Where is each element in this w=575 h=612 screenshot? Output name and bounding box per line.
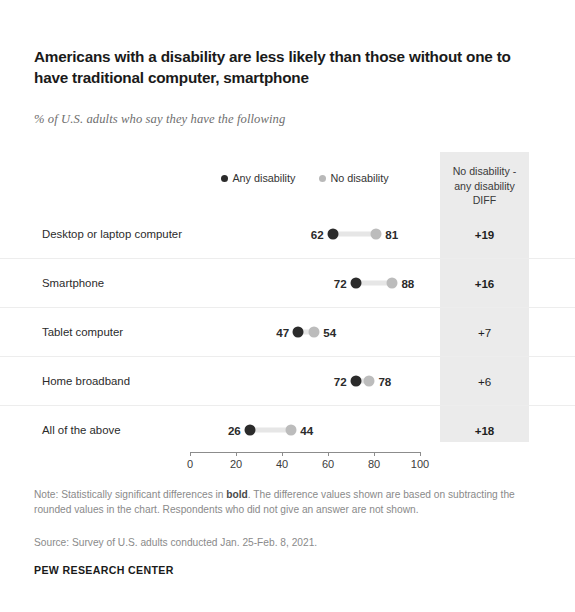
x-axis-tick [282, 452, 283, 456]
chart-note: Note: Statistically significant differen… [34, 488, 534, 517]
table-row: Tablet computer4754+7 [0, 308, 575, 357]
x-axis-tick [190, 452, 191, 456]
data-point-any-disability [327, 229, 338, 240]
row-label: Home broadband [42, 374, 192, 389]
pew-research-center-logo: PEW RESEARCH CENTER [34, 564, 174, 576]
x-axis-tick-label: 20 [230, 458, 242, 470]
diff-value: +6 [440, 375, 529, 388]
data-point-no-disability [387, 278, 398, 289]
diff-header-line-3: DIFF [440, 193, 529, 208]
row-plot: 4754 [190, 308, 420, 356]
x-axis-tick [236, 452, 237, 456]
diff-column-header: No disability - any disability DIFF [440, 164, 529, 208]
x-axis-tick-label: 60 [322, 458, 334, 470]
diff-value: +18 [440, 424, 529, 437]
legend-item-no-disability: No disability [319, 172, 388, 184]
table-row: Desktop or laptop computer6281+19 [0, 210, 575, 259]
diff-header-line-2: any disability [440, 179, 529, 194]
diff-value: +7 [440, 326, 529, 339]
row-plot: 6281 [190, 210, 420, 258]
diff-value: +16 [440, 277, 529, 290]
row-plot: 2644 [190, 406, 420, 454]
table-row: All of the above2644+18 [0, 406, 575, 454]
x-axis-tick [374, 452, 375, 456]
dot-connector [333, 232, 377, 237]
x-axis-tick-label: 0 [187, 458, 193, 470]
page-subtitle: % of U.S. adults who say they have the f… [34, 112, 504, 127]
data-point-no-disability [309, 327, 320, 338]
page-title: Americans with a disability are less lik… [34, 46, 534, 88]
row-label: Tablet computer [42, 325, 192, 340]
legend-label-any-disability: Any disability [232, 172, 295, 184]
chart-rows: Desktop or laptop computer6281+19Smartph… [0, 210, 575, 454]
data-point-any-disability [244, 425, 255, 436]
row-plot: 7278 [190, 357, 420, 405]
row-label: All of the above [42, 423, 192, 438]
row-label: Smartphone [42, 276, 192, 291]
data-point-any-disability [293, 327, 304, 338]
x-axis-line [190, 452, 420, 453]
legend-dot-icon-any-disability [221, 175, 228, 182]
data-point-any-disability [350, 376, 361, 387]
table-row: Home broadband7278+6 [0, 357, 575, 406]
x-axis-tick [328, 452, 329, 456]
x-axis: 020406080100 [190, 452, 420, 476]
x-axis-tick [420, 452, 421, 456]
diff-value: +19 [440, 228, 529, 241]
table-row: Smartphone7288+16 [0, 259, 575, 308]
note-prefix: Note: Statistically significant differen… [34, 489, 226, 500]
diff-header-line-1: No disability - [440, 164, 529, 179]
x-axis-tick-label: 80 [368, 458, 380, 470]
legend-dot-icon-no-disability [319, 175, 326, 182]
note-bold-emphasis: bold [226, 489, 248, 500]
row-label: Desktop or laptop computer [42, 227, 192, 242]
legend-label-no-disability: No disability [330, 172, 388, 184]
data-point-no-disability [364, 376, 375, 387]
x-axis-tick-label: 40 [276, 458, 288, 470]
chart-legend: Any disability No disability [190, 172, 420, 184]
row-plot: 7288 [190, 259, 420, 307]
data-point-no-disability [286, 425, 297, 436]
chart-source: Source: Survey of U.S. adults conducted … [34, 537, 534, 548]
legend-item-any-disability: Any disability [221, 172, 295, 184]
x-axis-tick-label: 100 [411, 458, 429, 470]
chart-page: Americans with a disability are less lik… [0, 0, 575, 612]
data-point-any-disability [350, 278, 361, 289]
data-point-no-disability [371, 229, 382, 240]
